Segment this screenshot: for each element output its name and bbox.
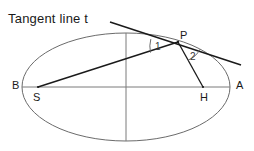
point-marker-h bbox=[202, 86, 204, 88]
tangent-line-title: Tangent line t bbox=[8, 12, 88, 25]
point-label-h: H bbox=[200, 92, 208, 103]
angle-label-2: 2 bbox=[190, 52, 196, 62]
point-label-s: S bbox=[33, 92, 40, 103]
point-marker-s bbox=[37, 86, 39, 88]
angle-label-1: 1 bbox=[155, 42, 161, 52]
point-marker-p bbox=[177, 41, 179, 43]
point-label-p: P bbox=[180, 30, 187, 41]
tangent-line-ellipse-diagram: Tangent line t B S A H P 1 2 bbox=[0, 0, 254, 151]
point-label-a: A bbox=[236, 80, 243, 91]
point-label-b: B bbox=[12, 80, 19, 91]
